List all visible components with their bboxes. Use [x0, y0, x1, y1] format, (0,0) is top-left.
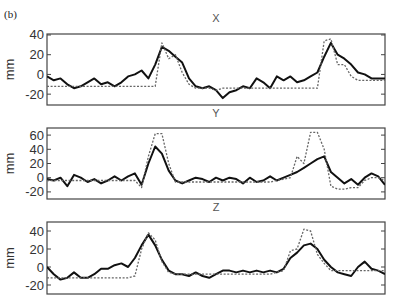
panel-y: Y6040200-20mm	[2, 107, 385, 199]
y-tick-label: 0	[37, 260, 44, 275]
y-tick-label: 20	[30, 242, 44, 257]
plot-frame	[47, 222, 385, 294]
y-axis-label: mm	[2, 153, 17, 175]
y-tick-label: -20	[25, 278, 44, 293]
y-tick-label: -20	[25, 184, 44, 199]
y-tick-label: 40	[30, 27, 44, 42]
panel-title: Y	[212, 107, 220, 119]
plot-frame	[47, 128, 385, 199]
y-tick-label: 60	[30, 128, 44, 143]
chart-figure: X40200-20mmY6040200-20mmZ40200-20mm	[0, 0, 394, 303]
plot-frame	[47, 34, 385, 105]
y-tick-label: 20	[30, 47, 44, 62]
y-tick-label: 40	[30, 142, 44, 157]
series-reference	[47, 132, 385, 189]
y-axis-label: mm	[2, 247, 17, 269]
panel-title: X	[212, 12, 220, 24]
panel-x: X40200-20mm	[2, 12, 385, 105]
y-tick-label: -20	[25, 87, 44, 102]
y-axis-label: mm	[2, 59, 17, 81]
panel-title: Z	[213, 201, 220, 213]
y-tick-label: 0	[37, 170, 44, 185]
y-tick-label: 20	[30, 156, 44, 171]
panel-z: Z40200-20mm	[2, 201, 385, 294]
y-tick-label: 0	[37, 67, 44, 82]
y-tick-label: 40	[30, 224, 44, 239]
series-measured	[47, 235, 385, 280]
